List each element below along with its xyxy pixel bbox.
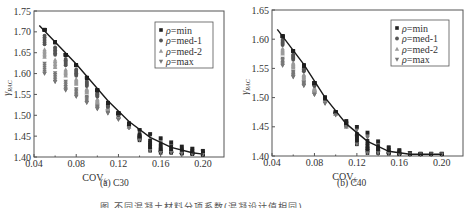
x-tick-label: 0.12 [348,157,366,168]
svg-text:ρ=med-2: ρ=med-2 [165,46,202,57]
y-axis-label: γRAC [1,79,13,95]
y-tick-label: 1.50 [252,92,270,103]
svg-text:ρ=min: ρ=min [401,23,428,34]
y-tick-label: 1.70 [14,26,32,37]
y-tick-label: 1.65 [252,5,270,16]
y-axis: 1.401.451.501.551.601.65 [252,5,276,162]
x-tick-label: 0.04 [263,157,281,168]
x-tick-label: 0.04 [25,158,43,169]
x-tick-label: 0.12 [110,158,128,169]
y-tick-label: 1.65 [14,47,32,58]
y-tick-label: 1.50 [14,110,32,121]
legend-item-med-1: ρ=med-1 [159,35,202,46]
legend: ρ=minρ=med-1ρ=med-2ρ=max [391,20,449,66]
y-tick-label: 1.60 [14,68,32,79]
panel-caption-c40: (b) C40 [337,178,366,188]
y-axis: 1.401.451.501.551.601.651.701.75 [14,6,38,163]
scatter-plot-c40: 1.401.451.501.551.601.650.040.080.120.16… [235,0,469,200]
svg-text:ρ=med-1: ρ=med-1 [401,33,438,44]
legend-item-med-2: ρ=med-2 [159,46,202,57]
scatter-plot-c30: 1.401.451.501.551.601.651.701.750.040.08… [0,0,234,200]
svg-text:ρ=med-1: ρ=med-1 [165,35,202,46]
y-axis-label: γRAC [239,78,251,94]
x-tick-label: 0.16 [152,158,170,169]
y-tick-label: 1.45 [14,131,32,142]
svg-text:ρ=med-2: ρ=med-2 [401,44,438,55]
x-tick-label: 0.20 [433,157,451,168]
svg-text:ρ=max: ρ=max [165,56,194,67]
chart-panel-c30: 1.401.451.501.551.601.651.701.750.040.08… [0,0,234,200]
chart-panel-c40: 1.401.451.501.551.601.650.040.080.120.16… [235,0,469,200]
y-tick-label: 1.60 [252,34,270,45]
x-tick-label: 0.08 [67,158,85,169]
y-tick-label: 1.75 [14,6,32,17]
legend-item-med-2: ρ=med-2 [395,44,438,55]
legend-item-med-1: ρ=med-1 [395,33,438,44]
x-axis: 0.040.080.120.160.20 [25,154,211,169]
y-tick-label: 1.45 [252,121,270,132]
figure-caption: 图 不同混凝土材料分项系数(混凝设计值相同) [100,200,303,208]
legend: ρ=minρ=med-1ρ=med-2ρ=max [155,22,213,68]
svg-text:ρ=min: ρ=min [165,25,192,36]
x-tick-label: 0.08 [306,157,324,168]
panel-title-c30: (a) C30 [100,178,129,188]
x-axis: 0.040.080.120.160.20 [263,153,450,168]
svg-text:ρ=max: ρ=max [401,54,430,65]
x-tick-label: 0.16 [391,157,409,168]
y-tick-label: 1.55 [252,63,270,74]
x-tick-label: 0.20 [194,158,212,169]
y-tick-label: 1.55 [14,89,32,100]
panel-caption-c30: (a) C30 [100,178,129,188]
panel-title-c40: (b) C40 [337,178,366,188]
